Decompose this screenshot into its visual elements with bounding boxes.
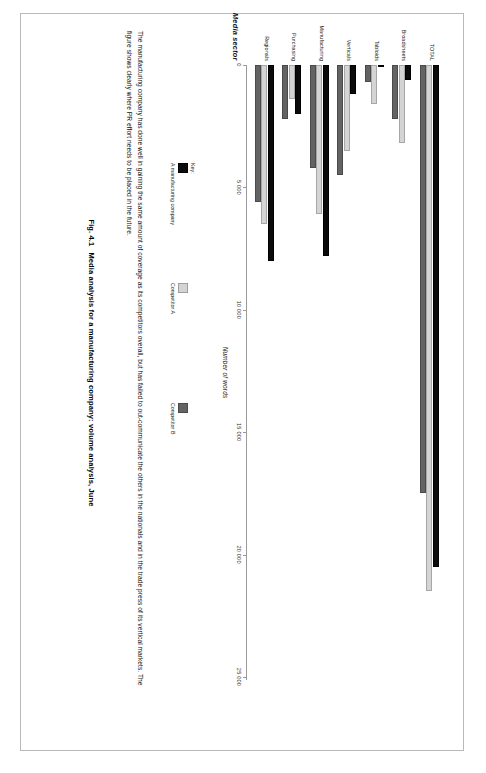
bar-chart: 05 00010 00015 00020 00025 000 Number of… [208,13,458,713]
bar-group [307,65,329,677]
bar-group [252,65,274,677]
category-label: Manufacturing [319,26,325,61]
axis-tick-label: 25 000 [236,668,242,686]
bar [351,65,357,94]
axis-tick [243,310,247,311]
rotated-figure-host: 05 00010 00015 00020 00025 000 Number of… [20,13,464,751]
bar [296,65,302,114]
bar [378,65,384,67]
bar [261,65,267,224]
bar [316,65,322,214]
bar-group [390,65,412,677]
bar [426,65,432,591]
axis-tick-label: 15 000 [236,423,242,441]
value-axis-title: Number of words [222,65,229,680]
bar-group [417,65,439,677]
category-label: Purchasing [292,33,298,61]
bar [399,65,405,143]
legend-label: A manufacturing company [170,163,176,225]
legend-swatch [178,283,188,293]
bar [323,65,329,256]
bar [365,65,371,82]
legend-label: Competitor A [170,283,176,314]
bar [371,65,377,104]
category-label: Broadsheets [402,30,408,61]
legend-swatch [178,163,188,173]
axis-tick [243,65,247,66]
axis-tick-label: 0 [236,63,242,66]
value-axis-line [246,65,247,680]
axis-tick-label: 20 000 [236,545,242,563]
figure-canvas: 05 00010 00015 00020 00025 000 Number of… [20,13,464,751]
bar [392,65,398,119]
bar [344,65,350,151]
figure-body-text: The manufacturing company has done well … [124,31,146,703]
category-axis-title: Media sector [232,13,241,61]
bar [406,65,412,80]
axis-tick [243,432,247,433]
legend-swatch [178,403,188,413]
axis-tick [243,187,247,188]
figure-caption-text: Media analysis for a manufacturing compa… [87,252,96,506]
bar [420,65,426,493]
axis-tick-label: 10 000 [236,301,242,319]
category-label: Tabloids [374,40,380,61]
bar [289,65,295,99]
axis-tick [243,555,247,556]
bar-group [335,65,357,677]
bar [255,65,261,202]
bar [310,65,316,168]
category-label: Verticals [347,40,353,61]
category-label: Regionals [264,36,270,61]
category-label: TOTAL [429,44,435,61]
bar [433,65,439,567]
figure-caption: Fig. 4.1Media analysis for a manufacturi… [87,13,96,713]
axis-tick-label: 5 000 [236,180,242,195]
bar-group [280,65,302,677]
bar-group [362,65,384,677]
legend-label: Competitor B [170,403,176,434]
axis-tick [243,677,247,678]
bar [282,65,288,119]
bar [268,65,274,261]
legend-key-label: Key: [190,163,196,174]
chart-legend: Key: A manufacturing companyCompetitor A… [170,163,196,583]
bar [337,65,343,175]
figure-number: Fig. 4.1 [87,219,96,246]
